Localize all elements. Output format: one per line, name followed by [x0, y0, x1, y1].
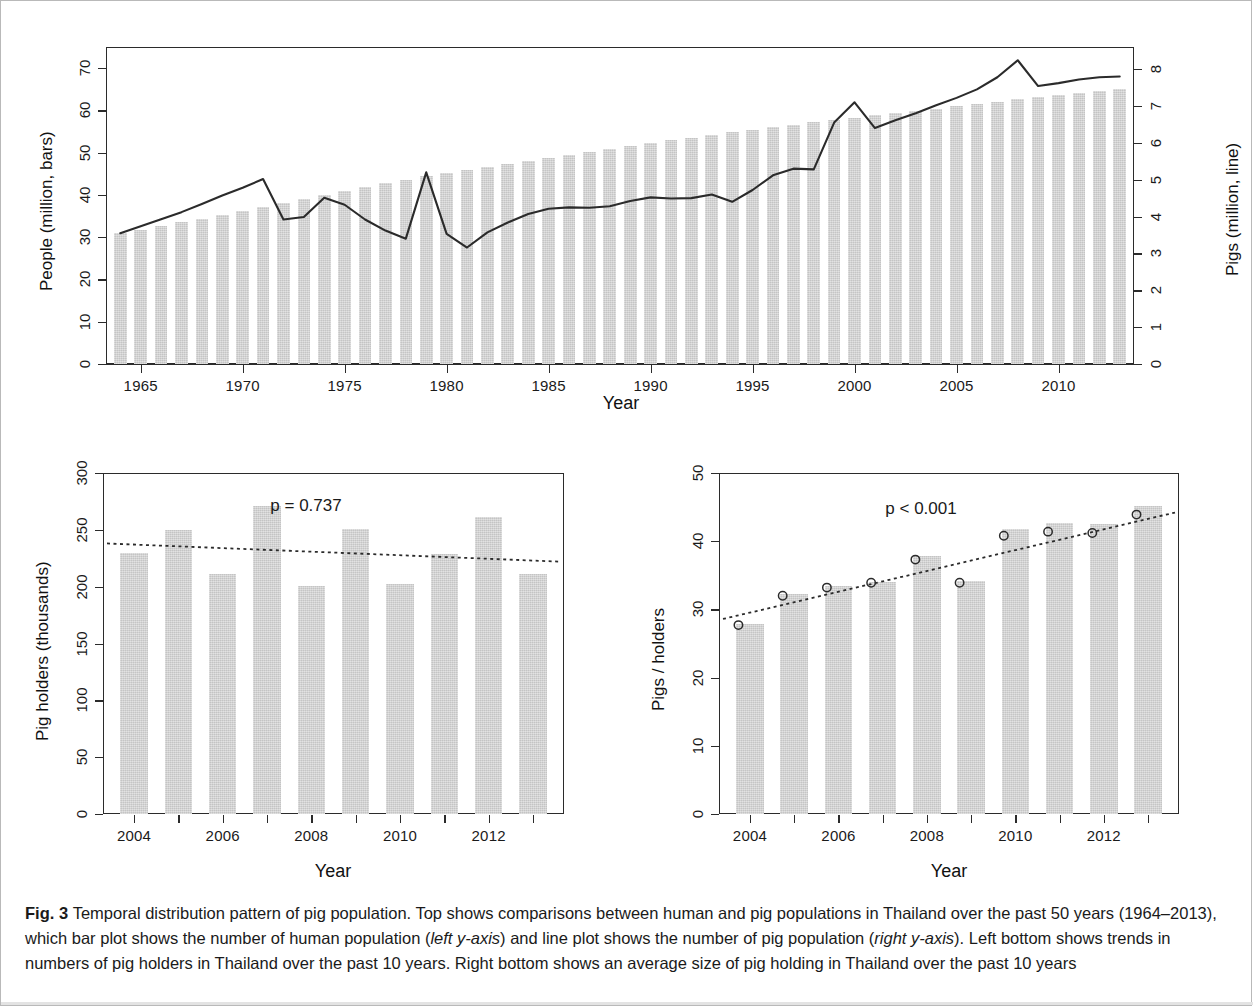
y-tick [98, 195, 106, 196]
y-tick [1134, 290, 1142, 291]
x-tick [794, 815, 795, 823]
y-tick [711, 678, 719, 679]
x-tick [651, 365, 652, 373]
y-tick-label: 0 [76, 360, 93, 368]
y-tick [95, 473, 103, 474]
y-tick-label: 30 [689, 601, 706, 618]
x-tick [447, 365, 448, 373]
x-tick-label: 2006 [821, 827, 855, 844]
chart-bottom-left-pig-holders: 05010015020025030020042006200820102012 p… [1, 441, 621, 901]
y-tick-label: 250 [73, 517, 90, 542]
x-tick-label: 2012 [1087, 827, 1121, 844]
x-tick [311, 815, 312, 823]
y-tick [711, 609, 719, 610]
x-tick [1015, 815, 1016, 823]
y-tick-label: 50 [76, 144, 93, 161]
y-tick-label: 100 [73, 688, 90, 713]
x-tick-label: 1970 [226, 377, 260, 394]
y-tick [711, 746, 719, 747]
x-axis-line [106, 364, 1134, 365]
y-tick [98, 68, 106, 69]
y-tick-label: 200 [73, 574, 90, 599]
x-tick-label: 2000 [837, 377, 871, 394]
figure-caption: Fig. 3 Temporal distribution pattern of … [25, 901, 1233, 976]
x-tick [1060, 815, 1061, 823]
y-tick-label: 0 [1147, 360, 1164, 368]
chart-top-human-vs-pig-population: 0102030405060700123456781965197019751980… [1, 1, 1253, 431]
chart-bottom-right-pigs-per-holder: 0102030405020042006200820102012 p < 0.00… [621, 441, 1253, 901]
x-tick [267, 815, 268, 823]
x-tick-label: 1995 [735, 377, 769, 394]
x-tick [927, 815, 928, 823]
x-tick-label: 2006 [206, 827, 240, 844]
y-tick [95, 700, 103, 701]
x-tick-label: 1975 [328, 377, 362, 394]
x-tick-label: 2004 [733, 827, 767, 844]
y-axis-title-top: People (million, bars) [37, 131, 57, 291]
y-tick-label: 2 [1147, 286, 1164, 294]
y-tick-label: 3 [1147, 249, 1164, 257]
x-tick [1148, 815, 1149, 823]
y-tick-label: 10 [76, 313, 93, 330]
y-tick [711, 473, 719, 474]
y-tick-label: 4 [1147, 212, 1164, 220]
y-tick [95, 757, 103, 758]
figure-caption-body: Temporal distribution pattern of pig pop… [25, 904, 1217, 972]
x-tick [1104, 815, 1105, 823]
x-tick-label: 1965 [124, 377, 158, 394]
y-tick-label: 30 [76, 229, 93, 246]
y-tick [1134, 180, 1142, 181]
x-tick [971, 815, 972, 823]
y-tick-label: 50 [689, 465, 706, 482]
y-tick [98, 237, 106, 238]
y-tick [1134, 327, 1142, 328]
x-axis-title-bottom-left: Year [315, 861, 351, 882]
x-tick-label: 2012 [472, 827, 506, 844]
y-tick [1134, 364, 1142, 365]
x-tick [141, 365, 142, 373]
y-tick-label: 5 [1147, 176, 1164, 184]
x-tick [134, 815, 135, 823]
y-tick [98, 279, 106, 280]
p-value-annotation-bottom-right: p < 0.001 [885, 499, 956, 519]
x-tick [957, 365, 958, 373]
y-tick-label: 40 [689, 533, 706, 550]
plot-overlay-top [1, 1, 1253, 431]
x-tick-label: 1990 [634, 377, 668, 394]
p-value-annotation-bottom-left: p = 0.737 [270, 496, 341, 516]
x-tick-label: 1980 [430, 377, 464, 394]
x-tick-label: 2010 [1041, 377, 1075, 394]
x-tick-label: 2008 [910, 827, 944, 844]
x-tick-label: 2005 [939, 377, 973, 394]
x-tick [400, 815, 401, 823]
y-tick-label: 50 [73, 749, 90, 766]
y-tick [1134, 106, 1142, 107]
y-tick [95, 644, 103, 645]
x-tick [855, 365, 856, 373]
x-tick-label: 2008 [294, 827, 328, 844]
y-tick [98, 153, 106, 154]
y-tick [1134, 69, 1142, 70]
y-tick-label: 6 [1147, 139, 1164, 147]
x-tick [223, 815, 224, 823]
x-tick [1059, 365, 1060, 373]
y-tick-label: 20 [689, 669, 706, 686]
x-tick [753, 365, 754, 373]
x-tick [838, 815, 839, 823]
y-tick [1134, 217, 1142, 218]
y-tick-label: 7 [1147, 102, 1164, 110]
y2-axis-title-top: Pigs (million, line) [1223, 143, 1243, 276]
x-tick [243, 365, 244, 373]
y-tick-label: 150 [73, 631, 90, 656]
x-tick [533, 815, 534, 823]
y-tick-label: 8 [1147, 65, 1164, 73]
x-tick-label: 1985 [532, 377, 566, 394]
y-tick [98, 322, 106, 323]
y-tick-label: 20 [76, 271, 93, 288]
x-tick [356, 815, 357, 823]
x-tick [489, 815, 490, 823]
y-tick-label: 60 [76, 102, 93, 119]
y-tick [95, 814, 103, 815]
y-tick-label: 70 [76, 60, 93, 77]
